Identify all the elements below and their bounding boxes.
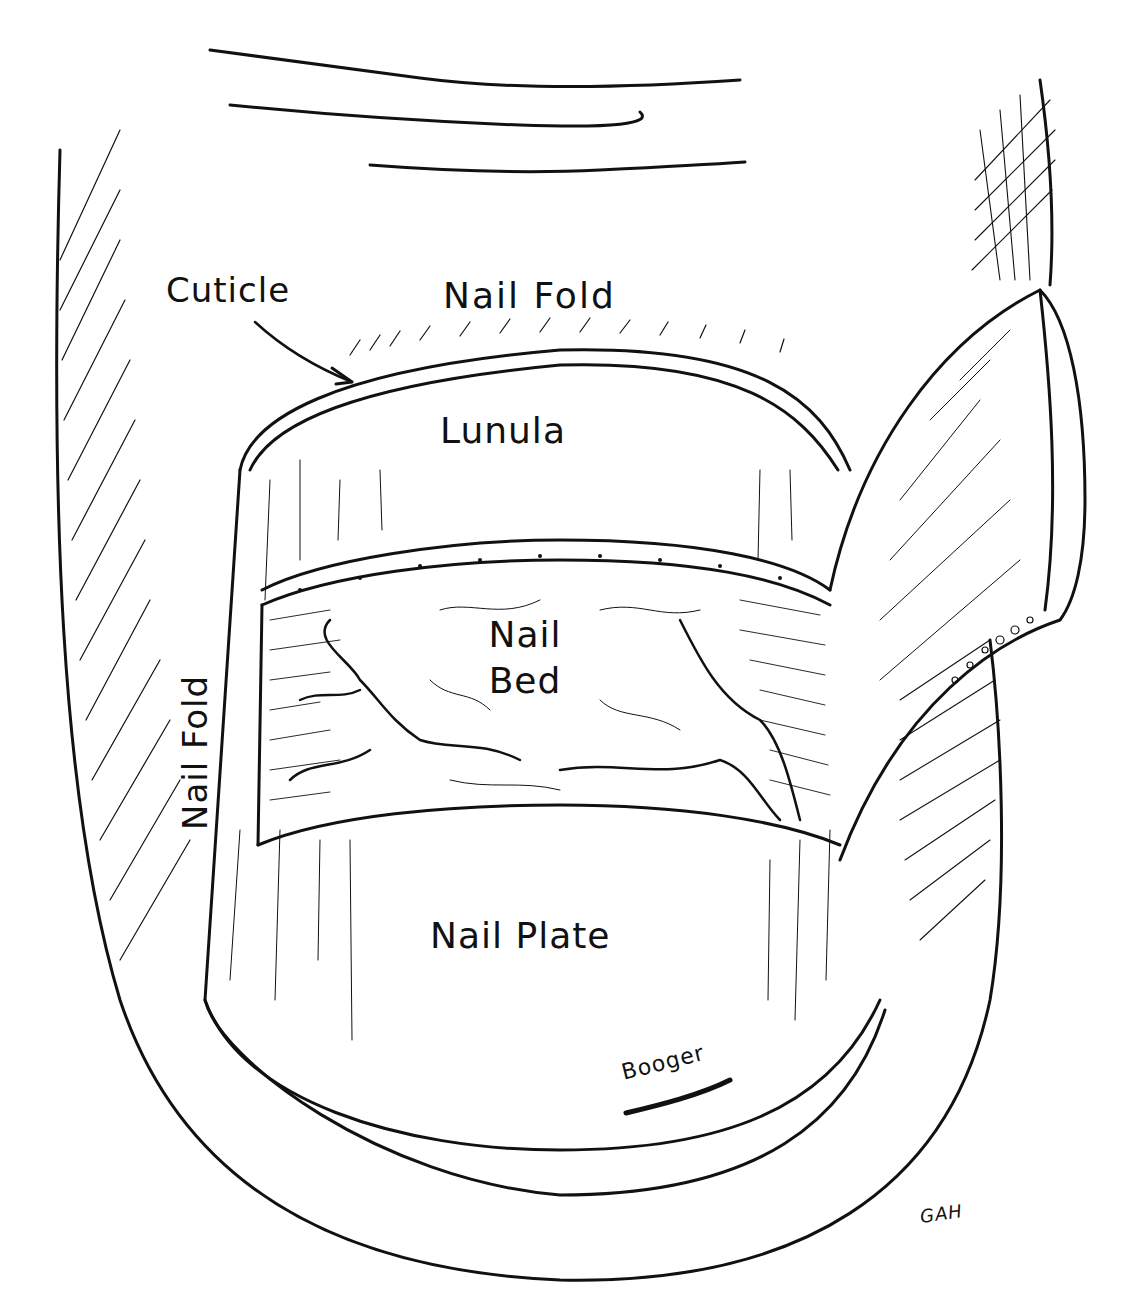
label-cuticle: Cuticle (166, 270, 290, 310)
booger-smudge (626, 1080, 730, 1113)
label-nail-bed: Nail Bed (470, 612, 580, 704)
knuckle-wrinkles (210, 50, 745, 172)
label-nail-fold-top: Nail Fold (443, 275, 616, 316)
label-nail-bed-line2: Bed (470, 658, 580, 704)
label-lunula: Lunula (440, 410, 566, 451)
cuticle-arrow (255, 322, 352, 384)
lifted-nail-flap (830, 290, 1085, 860)
label-nail-bed-line1: Nail (470, 612, 580, 658)
right-side-crosshatching (900, 95, 1055, 940)
nail-flap-striations (880, 330, 1020, 680)
nail-plate (205, 350, 885, 1195)
left-side-hatching (60, 130, 190, 960)
label-nail-plate: Nail Plate (430, 915, 610, 956)
label-nail-fold-side: Nail Fold (175, 680, 215, 830)
